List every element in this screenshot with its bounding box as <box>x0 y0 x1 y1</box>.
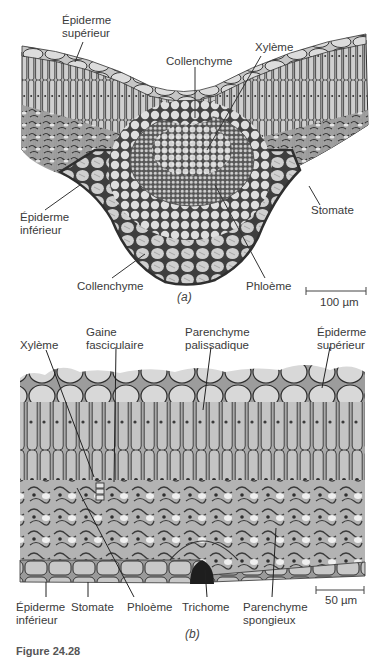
label-parenchyme-palissadique-b: Parenchyme palissadique <box>185 326 250 352</box>
label-line: inférieur <box>16 614 65 627</box>
label-phloeme-b: Phloème <box>127 601 172 614</box>
label-stomate-b: Stomate <box>71 601 114 614</box>
label-line: Gaine <box>86 326 144 339</box>
label-epiderme-inferieur-a: Épiderme inférieur <box>20 211 69 237</box>
figure-caption-partial: Figure 24.28 <box>16 645 80 658</box>
scale-bar-a <box>306 287 366 295</box>
label-stomate-a: Stomate <box>311 204 354 217</box>
label-line: Épiderme <box>16 601 65 614</box>
label-collenchyme-top-a: Collenchyme <box>166 55 232 68</box>
panel-label-b: (b) <box>185 627 200 641</box>
label-line: Épiderme <box>317 326 366 339</box>
label-line: supérieur <box>317 339 366 352</box>
label-xyleme-a: Xylème <box>255 41 293 54</box>
micrograph-b <box>20 365 365 584</box>
label-collenchyme-bottom-a: Collenchyme <box>77 280 143 293</box>
panel-label-a: (a) <box>177 290 192 304</box>
label-epiderme-superieur-b: Épiderme supérieur <box>317 326 366 352</box>
label-line: inférieur <box>20 224 69 237</box>
label-xyleme-b: Xylème <box>20 339 58 352</box>
scale-bar-b <box>316 586 364 594</box>
label-line: spongieux <box>243 614 308 627</box>
label-line: Épiderme <box>62 14 111 27</box>
label-phloeme-a: Phloème <box>246 280 291 293</box>
label-line: fasciculaire <box>86 339 144 352</box>
label-line: Parenchyme <box>185 326 250 339</box>
label-trichome-b: Trichome <box>182 601 230 614</box>
label-line: supérieur <box>62 27 111 40</box>
label-epiderme-superieur-a: Épiderme supérieur <box>62 14 111 40</box>
scale-bar-label-a: 100 µm <box>320 296 359 308</box>
label-parenchyme-spongieux-b: Parenchyme spongieux <box>243 601 308 627</box>
label-line: palissadique <box>185 339 250 352</box>
label-epiderme-inferieur-b: Épiderme inférieur <box>16 601 65 627</box>
scale-bar-label-b: 50 µm <box>325 594 357 606</box>
label-line: Parenchyme <box>243 601 308 614</box>
label-line: Épiderme <box>20 211 69 224</box>
label-gaine-fasciculaire-b: Gaine fasciculaire <box>86 326 144 352</box>
